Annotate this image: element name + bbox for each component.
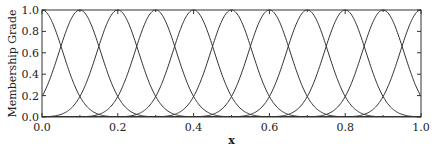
y-tick-label: 0.6 <box>22 47 40 60</box>
membership-curve <box>42 10 421 117</box>
membership-function-chart: 0.00.20.40.60.81.0 0.00.20.40.60.81.0 x … <box>0 0 436 149</box>
y-tick-label: 0.2 <box>22 90 40 103</box>
membership-curve <box>42 10 421 117</box>
plot-frame <box>42 10 421 117</box>
x-axis-label: x <box>228 134 235 147</box>
membership-curve <box>42 10 421 117</box>
x-tick-label: 0.4 <box>185 121 203 134</box>
membership-curve <box>42 10 421 117</box>
membership-curves <box>42 10 421 117</box>
membership-curve <box>42 10 421 117</box>
membership-curve <box>42 10 421 117</box>
x-tick-label: 0.2 <box>109 121 127 134</box>
x-tick-label: 0.6 <box>261 121 279 134</box>
y-tick-label: 0.4 <box>22 68 40 81</box>
membership-curve <box>42 10 421 117</box>
membership-curve <box>42 10 421 117</box>
membership-curve <box>42 10 421 117</box>
y-tick-label: 0.0 <box>22 111 40 124</box>
y-tick-label: 0.8 <box>22 25 40 38</box>
y-axis-label: Membership Grade <box>6 10 19 118</box>
membership-curve <box>42 10 421 117</box>
membership-curve <box>42 10 421 117</box>
x-tick-label: 0.8 <box>336 121 354 134</box>
x-tick-label: 1.0 <box>412 121 430 134</box>
y-tick-label: 1.0 <box>22 4 40 17</box>
